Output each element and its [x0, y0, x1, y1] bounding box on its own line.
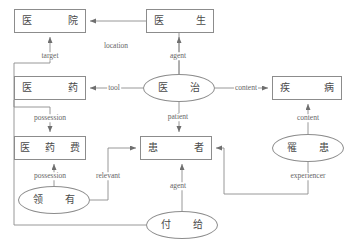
node-pay-to[interactable]: 付给 [146, 211, 218, 239]
node-suffer-illness[interactable]: 罹患 [272, 134, 344, 162]
node-medical-fee[interactable]: 医药费 [14, 136, 86, 160]
node-medicine[interactable]: 医药 [14, 76, 86, 100]
edge-label-content-right: content [296, 114, 320, 122]
edge-label-tool: tool [107, 84, 121, 92]
node-patient[interactable]: 患者 [140, 136, 212, 160]
edge-label-agent-top: agent [169, 52, 187, 60]
node-possess-label: 领有 [19, 195, 89, 205]
node-possess[interactable]: 领有 [18, 186, 90, 214]
node-hospital[interactable]: 医院 [14, 9, 86, 33]
node-patient-label: 患者 [141, 143, 211, 153]
edge-label-relevant: relevant [95, 172, 121, 180]
node-treat[interactable]: 医治 [143, 74, 215, 102]
edge-label-target: target [41, 52, 60, 60]
node-medicine-label: 医药 [15, 83, 85, 93]
edge-label-content-middle: content [234, 84, 258, 92]
edge-label-possession-lower: possession [33, 172, 67, 180]
node-medical-fee-label: 医药费 [15, 143, 85, 153]
edge-label-experiencer: experiencer [290, 172, 327, 180]
node-treat-label: 医治 [144, 83, 214, 93]
node-disease-label: 疾病 [273, 83, 341, 93]
node-suffer-illness-label: 罹患 [273, 143, 343, 153]
node-pay-to-label: 付给 [147, 220, 217, 230]
node-hospital-label: 医院 [15, 16, 85, 26]
node-disease[interactable]: 疾病 [272, 76, 342, 100]
node-doctor-label: 医生 [147, 16, 213, 26]
diagram-canvas: 医院 医生 医药 医治 疾病 医药费 患者 罹患 [0, 0, 355, 246]
edge-label-patient: patient [167, 113, 189, 121]
edge-label-possession-upper: possession [33, 114, 67, 122]
node-doctor[interactable]: 医生 [146, 9, 214, 33]
edge-label-agent-bottom: agent [169, 182, 187, 190]
edge-label-location: location [103, 42, 129, 50]
